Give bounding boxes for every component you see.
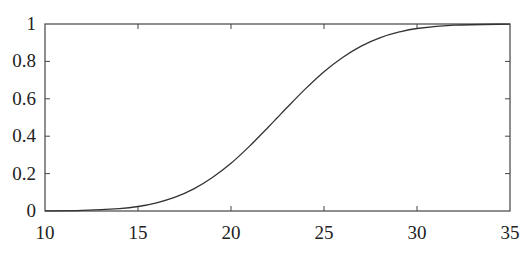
y-tick-label: 0.6 (12, 88, 36, 109)
x-tick-label: 25 (315, 222, 334, 243)
x-tick-label: 30 (408, 222, 427, 243)
y-tick-label: 0 (27, 200, 37, 221)
x-tick-label: 35 (501, 222, 520, 243)
y-tick-label: 0.8 (12, 50, 36, 71)
x-axis: 101520253035 (36, 24, 520, 243)
data-line (45, 24, 510, 211)
y-tick-label: 0.2 (12, 163, 36, 184)
y-tick-label: 1 (27, 13, 37, 34)
y-tick-label: 0.4 (12, 125, 36, 146)
chart: 101520253035 00.20.40.60.81 (0, 0, 524, 263)
x-tick-label: 15 (129, 222, 148, 243)
x-tick-label: 20 (222, 222, 241, 243)
y-axis: 00.20.40.60.81 (12, 13, 510, 221)
x-tick-label: 10 (36, 222, 55, 243)
